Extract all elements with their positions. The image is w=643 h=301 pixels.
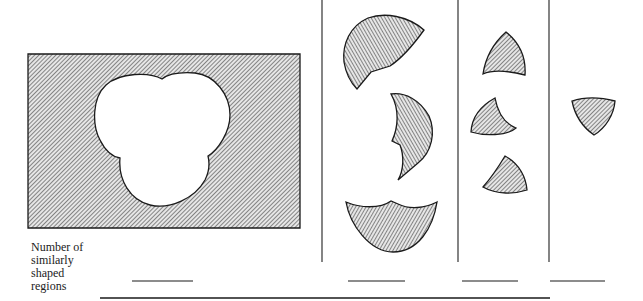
large-lune-shapes — [344, 15, 437, 252]
row-label: Number of similarly shaped regions — [31, 241, 83, 293]
curved-triangle-shapes — [471, 32, 527, 193]
central-triangle-shape — [572, 98, 615, 135]
decomposition-diagram — [0, 0, 643, 301]
row-label-line: regions — [31, 280, 83, 293]
rectangle-with-hole-shape — [28, 54, 300, 228]
